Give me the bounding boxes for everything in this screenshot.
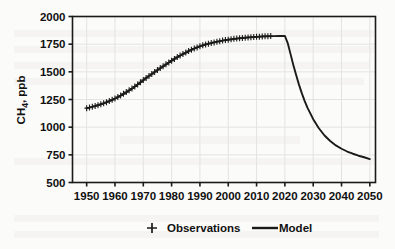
x-tick-label: 1950 (74, 190, 100, 202)
y-tick-label: 1500 (40, 66, 66, 78)
observation-marker (87, 104, 91, 110)
x-axis-tick-labels: 1950196019701980199020002010202020302040… (74, 190, 383, 202)
x-tick-label: 2040 (329, 190, 355, 202)
ch4-concentration-chart: 50075010001250150017502000 1950196019701… (0, 0, 395, 249)
chart-legend: Observations Model (147, 222, 312, 234)
y-tick-label: 1250 (40, 94, 66, 106)
observation-marker (178, 53, 182, 59)
observation-marker (104, 99, 108, 105)
y-tick-label: 2000 (40, 11, 66, 23)
y-tick-label: 1000 (40, 121, 66, 133)
y-axis-title-base: CH (15, 108, 27, 125)
observation-marker (192, 45, 196, 51)
observation-marker (181, 51, 185, 57)
observation-marker (90, 104, 94, 110)
legend-item-model: Model (252, 222, 312, 234)
observation-marker (189, 47, 193, 53)
x-tick-label: 2020 (272, 190, 298, 202)
legend-label-model: Model (279, 222, 312, 234)
legend-label-observations: Observations (167, 222, 241, 234)
observation-marker (184, 50, 188, 56)
observation-marker (110, 97, 114, 103)
observation-marker (269, 33, 273, 39)
y-tick-label: 1750 (40, 38, 66, 50)
observation-marker (186, 48, 190, 54)
observation-marker (107, 98, 111, 104)
observation-marker (93, 103, 97, 109)
observation-marker (201, 42, 205, 48)
observation-marker (113, 96, 117, 102)
x-tick-label: 1960 (102, 190, 128, 202)
observation-marker (99, 101, 103, 107)
observation-marker (195, 44, 199, 50)
observation-marker (96, 102, 100, 108)
figure-canvas: 50075010001250150017502000 1950196019701… (0, 0, 395, 249)
plus-marker-icon (147, 223, 157, 233)
x-tick-label: 2030 (300, 190, 326, 202)
observation-marker (209, 40, 213, 46)
observation-marker (101, 100, 105, 106)
svg-text:CH4, ppb: CH4, ppb (15, 76, 30, 125)
x-tick-label: 1980 (159, 190, 185, 202)
x-tick-label: 2000 (215, 190, 241, 202)
y-tick-label: 500 (46, 177, 65, 189)
y-axis-title-units: , ppb (15, 76, 27, 103)
x-tick-label: 1990 (187, 190, 213, 202)
observation-marker (218, 38, 222, 44)
x-tick-label: 1970 (130, 190, 156, 202)
observation-marker (84, 105, 88, 111)
y-axis-title: CH4, ppb (15, 76, 30, 125)
x-tick-label: 2050 (357, 190, 383, 202)
observation-marker (206, 41, 210, 47)
legend-item-observations: Observations (147, 222, 241, 234)
observation-marker (203, 41, 207, 47)
y-tick-label: 750 (46, 149, 65, 161)
y-axis-tick-labels: 50075010001250150017502000 (40, 11, 66, 189)
x-tick-label: 2010 (244, 190, 270, 202)
